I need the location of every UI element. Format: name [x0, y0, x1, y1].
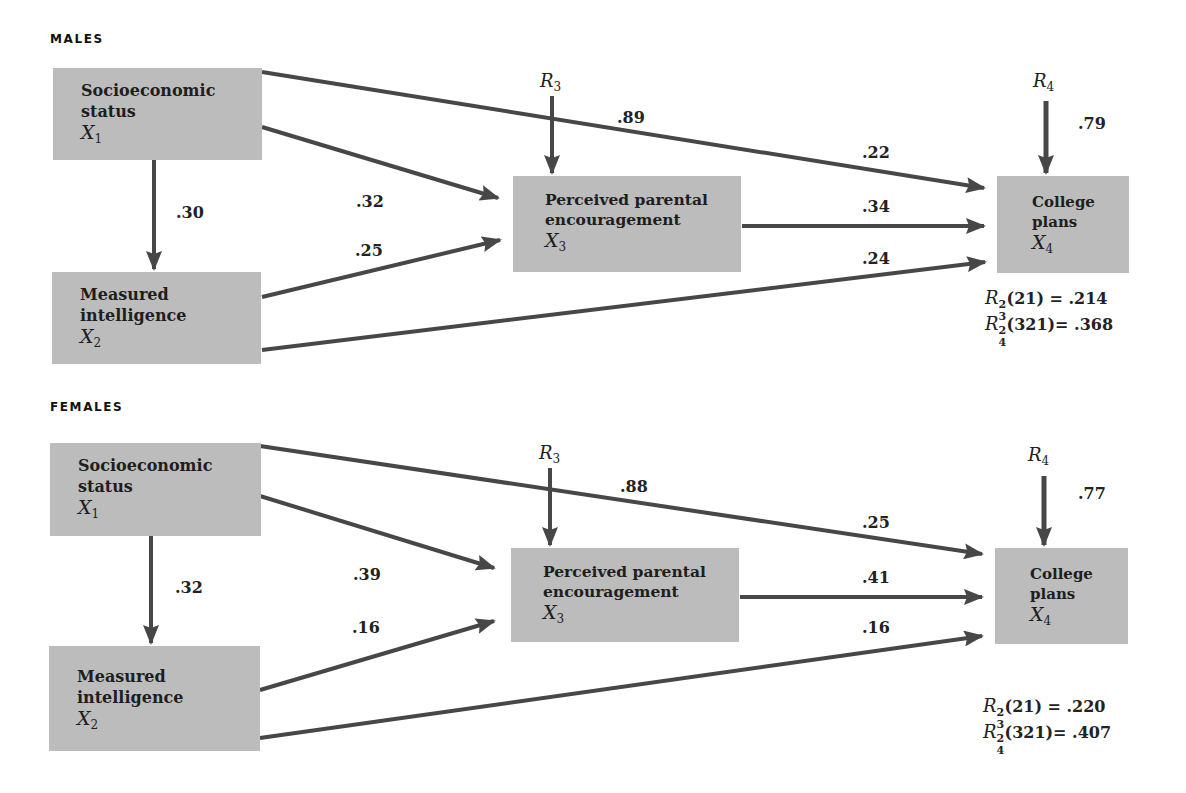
box-label-line2: status — [78, 476, 261, 497]
stat-r2-4: R24(321)= .368 — [985, 311, 1113, 338]
residual-r3: R3 — [539, 442, 560, 466]
box-measured-intelligence: Measured intelligence X2 — [52, 272, 261, 364]
section-label-males: MALES — [50, 32, 104, 46]
box-college-plans: College plans X4 — [997, 176, 1129, 273]
coef-x2-x4: .16 — [862, 618, 890, 637]
residual-r3: R3 — [540, 70, 561, 94]
box-socioeconomic-status: Socioeconomic status X1 — [50, 443, 261, 536]
box-college-plans: College plans X4 — [995, 548, 1128, 644]
residual-r4: R4 — [1028, 444, 1049, 468]
arrow-x1-x4 — [262, 72, 984, 188]
coef-x2-x3: .25 — [355, 241, 383, 260]
box-label-line2: encouragement — [543, 582, 739, 602]
coef-r3-x3: .88 — [620, 477, 648, 496]
coef-x2-x4: .24 — [862, 249, 890, 268]
box-label-line1: Perceived parental — [545, 190, 741, 210]
coef-x1-x4: .25 — [862, 513, 890, 532]
box-perceived-parental-encouragement: Perceived parental encouragement X3 — [511, 548, 739, 642]
coef-x1-x3: .39 — [353, 565, 381, 584]
residual-r4: R4 — [1033, 70, 1054, 94]
box-label-line1: College — [1030, 564, 1128, 584]
variable-label: X2 — [77, 708, 260, 736]
coef-x1-x2: .32 — [175, 578, 203, 597]
box-measured-intelligence: Measured intelligence X2 — [49, 646, 260, 751]
arrow-x1-x3 — [260, 496, 494, 568]
arrow-x1-x4 — [260, 446, 982, 554]
variable-label: X4 — [1030, 604, 1128, 631]
box-label-line1: Measured — [77, 666, 260, 687]
coef-x1-x3: .32 — [356, 192, 384, 211]
box-socioeconomic-status: Socioeconomic status X1 — [53, 68, 262, 160]
box-label-line1: Socioeconomic — [81, 80, 262, 101]
coef-x3-x4: .34 — [862, 197, 890, 216]
coef-x2-x3: .16 — [352, 618, 380, 637]
box-label-line1: Measured — [80, 284, 261, 305]
box-label-line2: status — [81, 101, 262, 122]
coef-x1-x2: .30 — [176, 203, 204, 222]
variable-label: X1 — [78, 497, 261, 525]
section-label-females: FEMALES — [50, 400, 123, 414]
arrow-x2-x4 — [260, 636, 982, 738]
coef-r3-x3: .89 — [617, 108, 645, 127]
box-label-line2: plans — [1030, 584, 1128, 604]
variable-label: X3 — [543, 602, 739, 629]
coef-r4-x4: .79 — [1078, 114, 1106, 133]
stat-r2-3: R23(21) = .220 — [983, 693, 1105, 720]
box-label-line1: College — [1032, 192, 1129, 212]
coef-x1-x4: .22 — [862, 143, 890, 162]
coef-r4-x4: .77 — [1078, 484, 1106, 503]
variable-label: X1 — [81, 122, 262, 150]
variable-label: X2 — [80, 326, 261, 354]
box-perceived-parental-encouragement: Perceived parental encouragement X3 — [513, 176, 741, 272]
box-label-line1: Socioeconomic — [78, 455, 261, 476]
arrow-x1-x3 — [262, 127, 498, 198]
variable-label: X4 — [1032, 232, 1129, 259]
box-label-line1: Perceived parental — [543, 562, 739, 582]
coef-x3-x4: .41 — [862, 568, 890, 587]
arrow-x2-x4 — [262, 262, 985, 350]
box-label-line2: intelligence — [77, 687, 260, 708]
box-label-line2: plans — [1032, 212, 1129, 232]
box-label-line2: intelligence — [80, 305, 261, 326]
variable-label: X3 — [545, 230, 741, 257]
stat-r2-3: R23(21) = .214 — [985, 285, 1107, 312]
box-label-line2: encouragement — [545, 210, 741, 230]
stat-r2-4: R24(321)= .407 — [983, 719, 1111, 746]
